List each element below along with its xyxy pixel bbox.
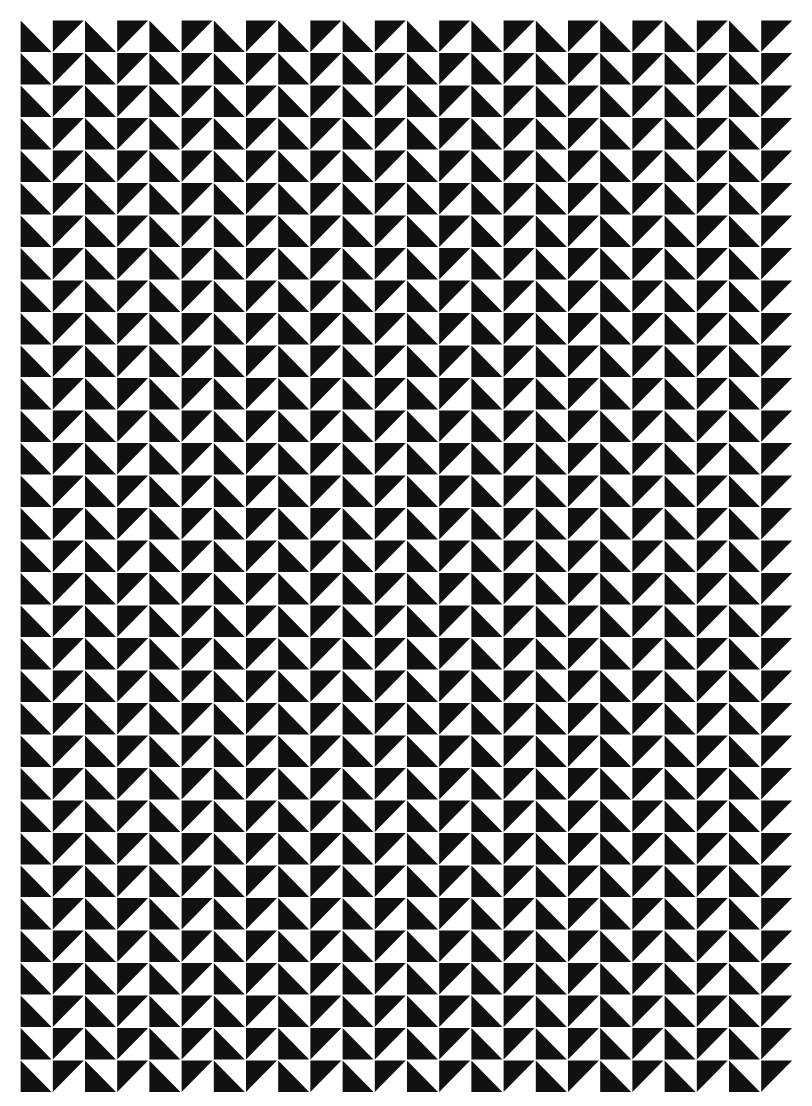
tile-lower-left-triangle [536, 996, 567, 1027]
tile-upper-left-triangle [632, 898, 663, 929]
tile-upper-left-triangle [439, 736, 470, 767]
tile-upper-left-triangle [117, 1028, 148, 1059]
tile-lower-left-triangle [343, 898, 374, 929]
tile-lower-left-triangle [536, 866, 567, 897]
tile-upper-left-triangle [439, 53, 470, 84]
tile-upper-left-triangle [53, 508, 84, 539]
tile-lower-left-triangle [214, 736, 245, 767]
tile-lower-left-triangle [407, 801, 438, 832]
tile-upper-left-triangle [117, 443, 148, 474]
tile-lower-left-triangle [278, 248, 309, 279]
tile-lower-left-triangle [407, 898, 438, 929]
tile-lower-left-triangle [343, 183, 374, 214]
tile-lower-left-triangle [665, 281, 696, 312]
tile-lower-left-triangle [729, 898, 760, 929]
tile-upper-left-triangle [53, 736, 84, 767]
tile-upper-left-triangle [117, 216, 148, 247]
tile-lower-left-triangle [665, 801, 696, 832]
tile-lower-left-triangle [214, 183, 245, 214]
tile-upper-left-triangle [504, 118, 535, 149]
tile-upper-left-triangle [439, 248, 470, 279]
tile-lower-left-triangle [21, 346, 52, 377]
tile-upper-left-triangle [375, 248, 406, 279]
tile-lower-left-triangle [729, 996, 760, 1027]
tile-lower-left-triangle [85, 768, 116, 799]
tile-upper-left-triangle [375, 183, 406, 214]
tile-lower-left-triangle [665, 541, 696, 572]
tile-upper-left-triangle [568, 931, 599, 962]
tile-lower-left-triangle [407, 281, 438, 312]
tile-lower-left-triangle [600, 151, 631, 182]
tile-lower-left-triangle [471, 606, 502, 637]
tile-lower-left-triangle [729, 638, 760, 669]
tile-lower-left-triangle [278, 151, 309, 182]
tile-lower-left-triangle [214, 801, 245, 832]
tile-upper-left-triangle [246, 963, 277, 994]
tile-upper-left-triangle [632, 736, 663, 767]
tile-upper-left-triangle [761, 931, 792, 962]
tile-upper-left-triangle [439, 21, 470, 52]
tile-upper-left-triangle [504, 833, 535, 864]
tile-lower-left-triangle [149, 443, 180, 474]
tile-upper-left-triangle [632, 541, 663, 572]
tile-upper-left-triangle [761, 703, 792, 734]
tile-lower-left-triangle [278, 508, 309, 539]
tile-upper-left-triangle [439, 1028, 470, 1059]
tile-upper-left-triangle [504, 313, 535, 344]
tile-upper-left-triangle [246, 703, 277, 734]
tile-upper-left-triangle [439, 281, 470, 312]
tile-lower-left-triangle [729, 378, 760, 409]
tile-lower-left-triangle [536, 411, 567, 442]
tile-upper-left-triangle [246, 866, 277, 897]
tile-upper-left-triangle [53, 281, 84, 312]
tile-lower-left-triangle [729, 183, 760, 214]
tile-lower-left-triangle [600, 963, 631, 994]
tile-lower-left-triangle [665, 86, 696, 117]
tile-lower-left-triangle [600, 476, 631, 507]
tile-lower-left-triangle [600, 703, 631, 734]
tile-lower-left-triangle [214, 151, 245, 182]
tile-lower-left-triangle [278, 1061, 309, 1092]
tile-upper-left-triangle [375, 801, 406, 832]
tile-upper-left-triangle [504, 443, 535, 474]
tile-lower-left-triangle [407, 866, 438, 897]
tile-upper-left-triangle [439, 86, 470, 117]
tile-lower-left-triangle [85, 86, 116, 117]
tile-upper-left-triangle [310, 216, 341, 247]
tile-upper-left-triangle [568, 703, 599, 734]
tile-lower-left-triangle [729, 216, 760, 247]
tile-upper-left-triangle [568, 53, 599, 84]
tile-upper-left-triangle [632, 801, 663, 832]
tile-lower-left-triangle [407, 86, 438, 117]
tile-upper-left-triangle [182, 118, 213, 149]
tile-lower-left-triangle [21, 866, 52, 897]
tile-lower-left-triangle [21, 963, 52, 994]
tile-upper-left-triangle [310, 1028, 341, 1059]
tile-upper-left-triangle [632, 346, 663, 377]
tile-lower-left-triangle [278, 833, 309, 864]
tile-lower-left-triangle [149, 963, 180, 994]
tile-lower-left-triangle [665, 833, 696, 864]
tile-upper-left-triangle [117, 736, 148, 767]
tile-upper-left-triangle [568, 346, 599, 377]
tile-upper-left-triangle [632, 443, 663, 474]
tile-upper-left-triangle [310, 86, 341, 117]
tile-upper-left-triangle [632, 606, 663, 637]
tile-upper-left-triangle [182, 931, 213, 962]
tile-upper-left-triangle [504, 216, 535, 247]
tile-lower-left-triangle [471, 996, 502, 1027]
tile-lower-left-triangle [729, 963, 760, 994]
tile-lower-left-triangle [343, 411, 374, 442]
tile-lower-left-triangle [536, 508, 567, 539]
tile-upper-left-triangle [568, 833, 599, 864]
tile-upper-left-triangle [504, 671, 535, 702]
tile-upper-left-triangle [761, 411, 792, 442]
tile-lower-left-triangle [149, 1028, 180, 1059]
tile-lower-left-triangle [600, 508, 631, 539]
tile-lower-left-triangle [278, 606, 309, 637]
tile-upper-left-triangle [375, 21, 406, 52]
tile-upper-left-triangle [53, 573, 84, 604]
tile-lower-left-triangle [85, 21, 116, 52]
tile-upper-left-triangle [310, 931, 341, 962]
tile-lower-left-triangle [471, 313, 502, 344]
